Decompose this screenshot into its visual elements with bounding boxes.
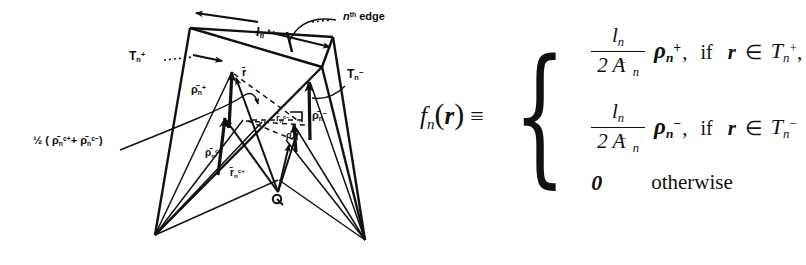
rwg-geometry-diagram: nth edge ln Tn+ Tn− ρ̄n+ r̄ ρ̄n− ρ̄nc+ ρ…	[0, 0, 410, 265]
label-midpoint-expression: ½ ( ρ̄nc++ ρ̄nc−)	[33, 135, 103, 148]
case-row-plus: ln 2 A+n ρn+ , if r ∈ Tn+ ,	[591, 14, 806, 90]
case-comma: ,	[682, 40, 687, 65]
case-row-minus: ln 2 A−n ρn− , if r ∈ Tn−	[591, 90, 806, 166]
equation-lhs: fn(r)≡	[420, 97, 484, 133]
fraction-plus: ln 2 A+n	[591, 25, 645, 78]
label-edge-length: ln	[256, 25, 264, 40]
figure-page: nth edge ln Tn+ Tn− ρ̄n+ r̄ ρ̄n− ρ̄nc+ ρ…	[0, 0, 806, 265]
label-rho-plus: ρ̄n+	[191, 84, 206, 97]
basis-function-equation: fn(r)≡ { ln 2 A+n ρn+ , if r ∈ Tn+ ,	[410, 0, 806, 265]
case-comma: ,	[682, 116, 687, 141]
r-variable: r	[728, 116, 736, 141]
triangle-minus-domain: Tn−	[771, 114, 797, 142]
triangle-pair-outline	[155, 28, 365, 240]
label-triangle-minus: Tn−	[347, 68, 363, 82]
label-r-vector: r̄	[242, 67, 246, 78]
if-keyword: if	[700, 117, 712, 140]
zero-value: 0	[591, 170, 602, 196]
label-rho-c-minus: ρ̄nc−	[286, 131, 301, 141]
membership-symbol: ∈	[745, 116, 762, 140]
label-triangle-plus: Tn+	[129, 50, 145, 64]
case-row-zero: 0 otherwise	[591, 166, 806, 216]
rho-vectors	[218, 72, 310, 175]
case-trailing-comma: ,	[797, 40, 802, 65]
equation-row: fn(r)≡ { ln 2 A+n ρn+ , if r ∈ Tn+ ,	[420, 14, 806, 216]
cases-brace: {	[513, 46, 565, 184]
rho-minus-term: ρn−	[654, 114, 681, 142]
if-keyword: if	[700, 41, 712, 64]
rho-plus-term: ρn+	[654, 38, 681, 66]
label-r-c-minus: r̄nc−	[276, 114, 289, 124]
label-nth-edge: nth edge	[343, 11, 385, 22]
triangle-plus-domain: Tn+	[771, 38, 797, 66]
fraction-numerator: ln	[602, 101, 634, 127]
label-r-c-plus: r̄nc+	[230, 168, 245, 179]
diagram-svg	[0, 0, 410, 265]
cases-list: ln 2 A+n ρn+ , if r ∈ Tn+ , ln	[591, 14, 806, 216]
label-rho-c-plus: ρ̄nc+	[205, 148, 222, 159]
leader-dotted-tplus	[164, 57, 192, 60]
otherwise-keyword: otherwise	[651, 170, 733, 195]
membership-symbol: ∈	[745, 40, 762, 64]
fraction-denominator: 2 A−n	[591, 128, 645, 155]
r-variable: r	[728, 40, 736, 65]
fraction-numerator: ln	[602, 25, 634, 51]
label-rho-minus: ρ̄n−	[312, 110, 327, 123]
fraction-minus: ln 2 A−n	[591, 101, 645, 154]
label-origin: O	[269, 192, 278, 204]
fraction-denominator: 2 A+n	[591, 52, 645, 79]
